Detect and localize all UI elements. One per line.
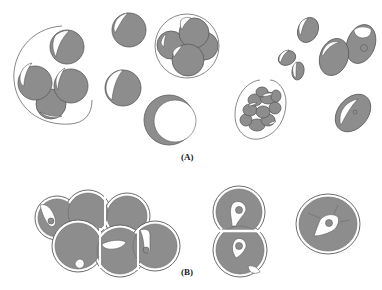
aggregate-round bbox=[296, 194, 360, 254]
aggregate-large bbox=[35, 190, 180, 277]
panel-b-label: (B) bbox=[181, 267, 193, 277]
cell-cluster-left bbox=[14, 26, 92, 124]
single-cell-top bbox=[112, 13, 146, 47]
single-cell-middle bbox=[105, 70, 141, 106]
ovoid-cells bbox=[276, 14, 381, 139]
panel-b bbox=[35, 186, 360, 277]
panel-a bbox=[14, 13, 381, 145]
panel-a-label: (A) bbox=[181, 152, 194, 162]
aggregate-pair bbox=[213, 186, 267, 277]
crescent-cell bbox=[144, 95, 196, 145]
morula-cluster bbox=[235, 80, 286, 139]
cell-cluster-enclosed bbox=[155, 14, 219, 78]
diagram-figure bbox=[0, 0, 382, 290]
